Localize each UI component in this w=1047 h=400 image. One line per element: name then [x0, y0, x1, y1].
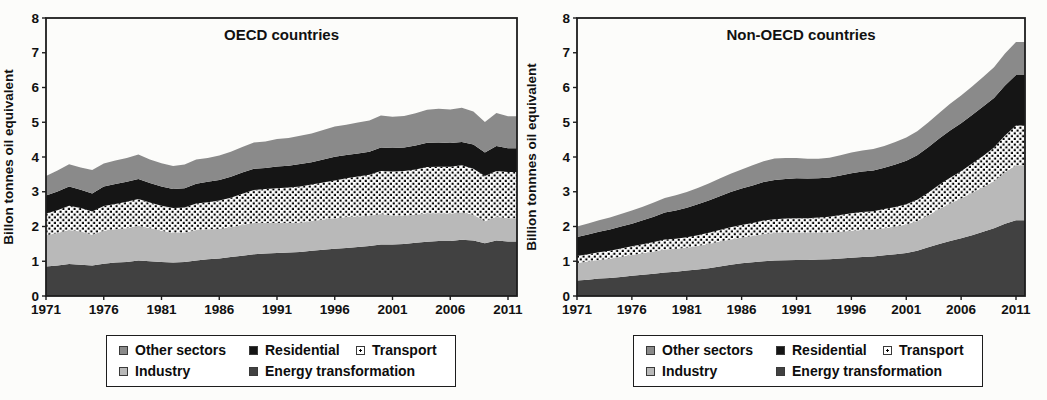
x-tick-label: 2011	[1001, 302, 1031, 317]
x-tick-label: 2001	[891, 302, 922, 317]
legend-label: Industry	[135, 361, 190, 381]
legend-label: Residential	[792, 340, 867, 360]
x-tick-label: 1971	[31, 302, 62, 317]
x-tick-label: 1991	[262, 302, 293, 317]
y-tick-label: 7	[31, 45, 39, 60]
non-oecd-stacked-area-chart: 0123456781971197619811986199119962001200…	[523, 0, 1046, 334]
x-tick-label: 2011	[493, 302, 523, 317]
other-sectors-swatch-icon	[119, 346, 128, 355]
legend-item-transport: Transport	[356, 340, 449, 360]
legend-label: Energy transformation	[265, 361, 415, 381]
legend-label: Transport	[372, 340, 437, 360]
legend-item-transport: Transport	[883, 340, 976, 360]
y-tick-label: 2	[31, 219, 39, 234]
x-tick-label: 2001	[377, 302, 408, 317]
legend-item-energy-transformation: Energy transformation	[776, 361, 976, 381]
legend-item-other-sectors: Other sectors	[119, 340, 249, 360]
legend-label: Residential	[265, 340, 340, 360]
residential-swatch-icon	[249, 346, 258, 355]
y-tick-label: 8	[31, 11, 39, 26]
x-tick-label: 1996	[836, 302, 867, 317]
x-tick-label: 1976	[617, 302, 648, 317]
chart-panel-non-oecd: 0123456781971197619811986199119962001200…	[523, 0, 1046, 400]
legend-item-residential: Residential	[776, 340, 883, 360]
y-tick-label: 6	[31, 80, 39, 95]
industry-swatch-icon	[646, 367, 655, 376]
y-tick-label: 8	[562, 11, 570, 26]
y-tick-label: 3	[31, 184, 39, 199]
x-tick-label: 1981	[146, 302, 177, 317]
legend-label: Other sectors	[135, 340, 226, 360]
x-tick-label: 2006	[435, 302, 466, 317]
other-sectors-swatch-icon	[646, 346, 655, 355]
x-tick-label: 1986	[727, 302, 758, 317]
chart-panel-oecd: 0123456781971197619811986199119962001200…	[0, 0, 523, 400]
legend-item-residential: Residential	[249, 340, 356, 360]
legend-item-other-sectors: Other sectors	[646, 340, 776, 360]
legend-label: Industry	[662, 361, 717, 381]
industry-swatch-icon	[119, 367, 128, 376]
figure-energy-demand-by-sector: 0123456781971197619811986199119962001200…	[0, 0, 1047, 400]
y-tick-label: 4	[562, 150, 570, 165]
transport-swatch-icon	[356, 346, 365, 355]
y-tick-label: 6	[562, 80, 570, 95]
y-tick-label: 4	[31, 150, 39, 165]
x-tick-label: 1991	[781, 302, 812, 317]
oecd-stacked-area-chart: 0123456781971197619811986199119962001200…	[0, 0, 523, 334]
x-tick-label: 1986	[204, 302, 235, 317]
legend-label: Energy transformation	[792, 361, 942, 381]
y-tick-label: 2	[562, 219, 570, 234]
x-tick-label: 1976	[89, 302, 120, 317]
y-tick-label: 5	[31, 115, 39, 130]
legend-item-industry: Industry	[646, 361, 776, 381]
legend-box-oecd: Other sectors Residential Transport Indu…	[106, 335, 456, 387]
legend-label: Transport	[899, 340, 964, 360]
y-tick-label: 1	[562, 254, 570, 269]
chart-title: Non-OECD countries	[726, 26, 875, 43]
y-tick-label: 7	[562, 45, 570, 60]
y-tick-label: 5	[562, 115, 570, 130]
legend-label: Other sectors	[662, 340, 753, 360]
chart-title: OECD countries	[224, 26, 339, 43]
y-tick-label: 1	[31, 254, 39, 269]
x-tick-label: 1981	[672, 302, 703, 317]
x-tick-label: 2006	[946, 302, 977, 317]
transport-swatch-icon	[883, 346, 892, 355]
energy-transformation-swatch-icon	[776, 367, 785, 376]
y-axis-label: Billon tonnes oil equivalent	[1, 69, 16, 245]
residential-swatch-icon	[776, 346, 785, 355]
x-tick-label: 1971	[562, 302, 593, 317]
y-tick-label: 3	[562, 184, 570, 199]
legend-box-non-oecd: Other sectors Residential Transport Indu…	[633, 335, 983, 387]
legend-item-industry: Industry	[119, 361, 249, 381]
energy-transformation-swatch-icon	[249, 367, 258, 376]
x-tick-label: 1996	[320, 302, 351, 317]
legend-item-energy-transformation: Energy transformation	[249, 361, 449, 381]
y-axis-label: Billion tonnnes oil equivalent	[524, 63, 539, 251]
